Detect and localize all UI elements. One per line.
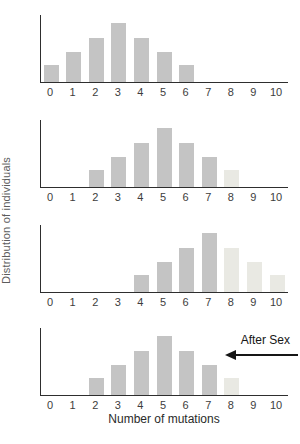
x-tick-label: 3 xyxy=(109,399,127,411)
x-axis-ticks-1: 012345678910 xyxy=(40,83,288,99)
x-tick-label: 7 xyxy=(199,86,217,98)
bar-x9 xyxy=(247,262,262,292)
bar-x6 xyxy=(179,143,194,187)
x-tick-label: 8 xyxy=(222,191,240,203)
x-tick-label: 8 xyxy=(222,399,240,411)
left-arrow-icon xyxy=(236,354,298,356)
x-tick-label: 3 xyxy=(109,296,127,308)
x-tick-label: 2 xyxy=(86,399,104,411)
x-tick-label: 1 xyxy=(64,296,82,308)
x-tick-label: 7 xyxy=(199,399,217,411)
bar-x8 xyxy=(224,378,239,395)
bar-x7 xyxy=(202,233,217,292)
bar-x3 xyxy=(111,365,126,395)
x-tick-label: 5 xyxy=(154,296,172,308)
bar-panel-2: 012345678910 xyxy=(40,120,288,204)
bar-panel-1: 012345678910 xyxy=(40,15,288,99)
x-tick-label: 3 xyxy=(109,191,127,203)
bar-x7 xyxy=(202,157,217,187)
bar-x3 xyxy=(111,157,126,187)
x-tick-label: 4 xyxy=(131,86,149,98)
x-tick-label: 8 xyxy=(222,296,240,308)
plot-area-4: After Sex xyxy=(40,328,288,396)
bar-x4 xyxy=(134,351,149,395)
bar-panel-4: After Sex 012345678910 xyxy=(40,328,288,412)
x-tick-label: 8 xyxy=(222,86,240,98)
bar-x8 xyxy=(224,170,239,187)
bar-x1 xyxy=(66,52,81,82)
x-tick-label: 7 xyxy=(199,191,217,203)
x-tick-label: 10 xyxy=(267,191,285,203)
mutation-distribution-figure: Distribution of individuals 012345678910… xyxy=(0,0,300,444)
x-tick-label: 6 xyxy=(177,191,195,203)
x-tick-label: 5 xyxy=(154,86,172,98)
x-tick-label: 9 xyxy=(244,86,262,98)
bar-x2 xyxy=(89,170,104,187)
x-tick-label: 1 xyxy=(64,191,82,203)
bar-x2 xyxy=(89,38,104,82)
bar-x3 xyxy=(111,23,126,82)
x-tick-label: 4 xyxy=(131,399,149,411)
x-tick-label: 7 xyxy=(199,296,217,308)
after-sex-annotation: After Sex xyxy=(241,333,290,347)
bar-x4 xyxy=(134,38,149,82)
x-tick-label: 6 xyxy=(177,296,195,308)
plot-area-2 xyxy=(40,120,288,188)
x-axis-title: Number of mutations xyxy=(40,412,288,426)
x-tick-label: 9 xyxy=(244,399,262,411)
x-tick-label: 10 xyxy=(267,86,285,98)
x-tick-label: 4 xyxy=(131,191,149,203)
x-tick-label: 10 xyxy=(267,399,285,411)
x-tick-label: 9 xyxy=(244,191,262,203)
bar-x6 xyxy=(179,351,194,395)
bar-x6 xyxy=(179,65,194,82)
plot-area-3 xyxy=(40,225,288,293)
x-tick-label: 6 xyxy=(177,86,195,98)
x-tick-label: 0 xyxy=(41,86,59,98)
bar-x8 xyxy=(224,248,239,292)
x-tick-label: 0 xyxy=(41,296,59,308)
x-tick-label: 2 xyxy=(86,86,104,98)
bar-x0 xyxy=(44,65,59,82)
x-tick-label: 0 xyxy=(41,399,59,411)
x-tick-label: 4 xyxy=(131,296,149,308)
bar-x5 xyxy=(157,128,172,187)
x-tick-label: 9 xyxy=(244,296,262,308)
x-tick-label: 5 xyxy=(154,191,172,203)
y-axis-label: Distribution of individuals xyxy=(0,125,16,315)
bar-x5 xyxy=(157,262,172,292)
x-tick-label: 0 xyxy=(41,191,59,203)
plot-area-1 xyxy=(40,15,288,83)
x-tick-label: 5 xyxy=(154,399,172,411)
bar-x2 xyxy=(89,378,104,395)
x-axis-ticks-4: 012345678910 xyxy=(40,396,288,412)
x-axis-ticks-2: 012345678910 xyxy=(40,188,288,204)
x-tick-label: 2 xyxy=(86,296,104,308)
x-tick-label: 6 xyxy=(177,399,195,411)
bar-x10 xyxy=(270,275,285,292)
x-axis-ticks-3: 012345678910 xyxy=(40,293,288,309)
x-tick-label: 10 xyxy=(267,296,285,308)
bar-x6 xyxy=(179,248,194,292)
bar-x4 xyxy=(134,275,149,292)
x-tick-label: 1 xyxy=(64,399,82,411)
bar-x5 xyxy=(157,52,172,82)
bar-x7 xyxy=(202,365,217,395)
bar-x5 xyxy=(157,336,172,395)
x-tick-label: 3 xyxy=(109,86,127,98)
bar-x4 xyxy=(134,143,149,187)
x-tick-label: 2 xyxy=(86,191,104,203)
bar-panel-3: 012345678910 xyxy=(40,225,288,309)
x-tick-label: 1 xyxy=(64,86,82,98)
